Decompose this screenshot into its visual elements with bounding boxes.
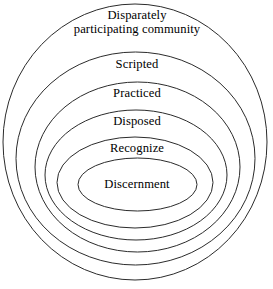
ring-label-disposed: Disposed bbox=[51, 114, 223, 128]
ring-label-discernment: Discernment bbox=[69, 177, 205, 191]
nested-ellipse-diagram: Disparately participating community Scri… bbox=[0, 0, 273, 289]
ring-label-recognize: Recognize bbox=[51, 141, 223, 155]
ring-label-practiced: Practiced bbox=[51, 86, 223, 100]
ring-label-outermost: Disparately participating community bbox=[31, 8, 243, 36]
ring-label-scripted: Scripted bbox=[51, 57, 223, 71]
